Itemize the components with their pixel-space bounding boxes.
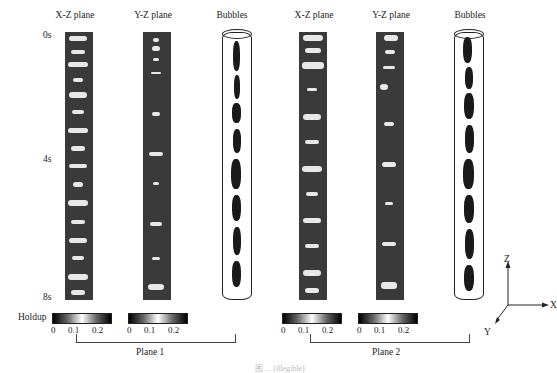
cylinder-top bbox=[222, 29, 252, 39]
col-title-yz-plane-2: Y-Z plane bbox=[356, 10, 426, 20]
colorbar-4 bbox=[358, 313, 418, 324]
bubbles-2-cylinder bbox=[454, 32, 484, 300]
xz-plane-2-strip bbox=[299, 32, 327, 300]
col-title-xz-plane-2: X-Z plane bbox=[279, 10, 349, 20]
xz-plane-1-strip bbox=[65, 32, 93, 300]
axis-label-x: X bbox=[550, 300, 557, 310]
colorbar-3-tick-1: 0.1 bbox=[298, 325, 309, 335]
colorbar-3-tick-0: 0 bbox=[281, 325, 286, 335]
colorbar-1-tick-0: 0 bbox=[51, 325, 56, 335]
figure-caption: 图 ... (illegible) bbox=[180, 362, 380, 373]
axis-label-z: Z bbox=[504, 254, 510, 264]
col-title-xz-plane-1: X-Z plane bbox=[40, 10, 110, 20]
colorbar-2 bbox=[128, 313, 188, 324]
axis-label-y: Y bbox=[484, 327, 491, 337]
colorbar-1 bbox=[52, 313, 112, 324]
col-title-bubbles-1: Bubbles bbox=[197, 10, 267, 20]
colorbar-label-holdup: Holdup bbox=[18, 312, 47, 322]
group-label-plane-2: Plane 2 bbox=[372, 347, 400, 357]
colorbar-3 bbox=[282, 313, 342, 324]
group-label-plane-1: Plane 1 bbox=[136, 347, 164, 357]
yz-plane-1-strip bbox=[143, 32, 171, 300]
yz-plane-2-strip bbox=[376, 32, 404, 300]
time-label-0s: 0s bbox=[43, 30, 51, 40]
col-title-bubbles-2: Bubbles bbox=[435, 10, 505, 20]
xyz-axes-icon bbox=[495, 255, 555, 335]
time-label-8s: 8s bbox=[43, 292, 51, 302]
bubbles-1-cylinder bbox=[222, 32, 252, 300]
bracket-plane-1 bbox=[76, 334, 236, 343]
time-label-4s: 4s bbox=[43, 154, 51, 164]
col-title-yz-plane-1: Y-Z plane bbox=[118, 10, 188, 20]
bracket-plane-2 bbox=[310, 334, 470, 343]
